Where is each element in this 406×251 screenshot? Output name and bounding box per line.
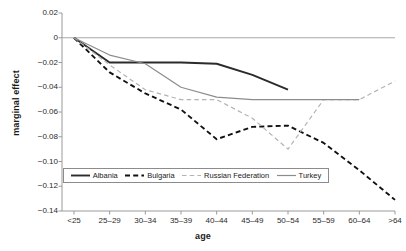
series-line-turkey <box>74 38 359 100</box>
series-line-albania <box>74 38 288 90</box>
series-line-russian-federation <box>74 38 395 149</box>
legend-item-russian-federation: Russian Federation <box>182 171 269 180</box>
legend-item-bulgaria: Bulgaria <box>125 171 175 180</box>
legend-key-icon <box>71 172 90 179</box>
figure-caption-fragment <box>8 243 308 249</box>
x-axis-label: age <box>0 231 406 241</box>
chart-svg <box>0 0 406 251</box>
chart-legend: AlbaniaBulgariaRussian FederationTurkey <box>63 168 329 183</box>
legend-label: Turkey <box>299 171 322 180</box>
legend-label: Russian Federation <box>204 171 269 180</box>
legend-item-turkey: Turkey <box>277 171 322 180</box>
legend-key-icon <box>182 172 201 179</box>
plot-canvas <box>0 0 406 251</box>
legend-key-icon <box>125 172 144 179</box>
x-tick-label: >64 <box>372 216 406 225</box>
legend-key-icon <box>277 172 296 179</box>
legend-label: Bulgaria <box>147 171 175 180</box>
chart-figure: marginal effect 0.020−0.02−0.04−0.06−0.0… <box>0 0 406 251</box>
legend-label: Albania <box>93 171 118 180</box>
legend-item-albania: Albania <box>71 171 118 180</box>
